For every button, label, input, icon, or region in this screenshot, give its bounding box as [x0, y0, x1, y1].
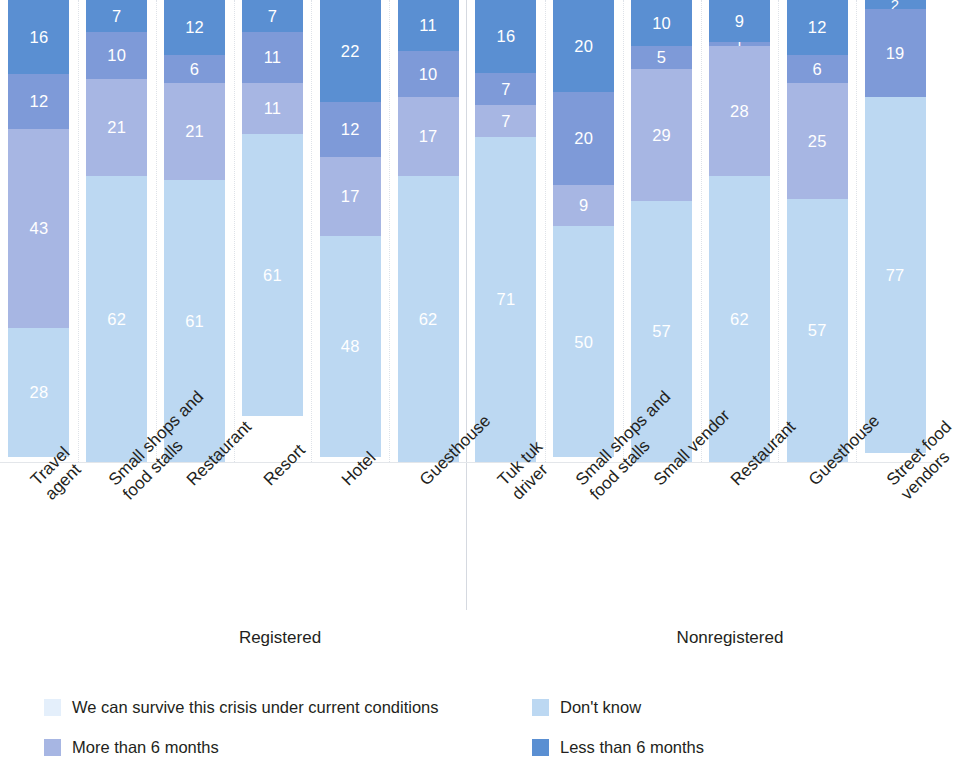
bar-segment[interactable]: 12 — [164, 0, 225, 55]
legend-item-survive[interactable]: We can survive this crisis under current… — [44, 698, 439, 717]
stacked-bar[interactable]: 2020950 — [553, 0, 614, 462]
bar-segment[interactable]: 6 — [164, 55, 225, 83]
stacked-bar[interactable]: 7102162 — [86, 0, 147, 462]
bar-segment[interactable]: 62 — [398, 176, 459, 462]
legend-item-more-than-6-months[interactable]: More than 6 months — [44, 738, 219, 757]
category-axis-labels: Travel agentSmall shops and food stallsR… — [0, 462, 934, 612]
bar-segment-value: 11 — [264, 49, 282, 66]
stacked-bar[interactable]: 22121748 — [320, 0, 381, 462]
bar-segment[interactable]: 10 — [398, 51, 459, 97]
stacked-bar[interactable]: 21977 — [865, 0, 926, 462]
bar-segment-value: 57 — [808, 322, 827, 339]
legend-swatch-dont-know — [532, 699, 549, 716]
bar-segment[interactable]: 2 — [865, 0, 926, 9]
bar-segment[interactable]: 7 — [475, 105, 536, 137]
legend-item-less-than-6-months[interactable]: Less than 6 months — [532, 738, 704, 757]
bar-segment[interactable]: 11 — [398, 0, 459, 51]
bar-segment-value: 62 — [107, 311, 126, 328]
stacked-bar[interactable]: 912862 — [709, 0, 770, 462]
bar-slot: 11101762 — [389, 0, 467, 462]
bar-segment[interactable]: 9 — [553, 185, 614, 227]
bar-slot: 912862 — [700, 0, 778, 462]
gridline — [78, 0, 80, 462]
bar-segment[interactable]: 20 — [553, 0, 614, 92]
bar-segment[interactable]: 11 — [242, 32, 303, 83]
bar-segment-value: 17 — [419, 128, 438, 145]
gridline — [701, 0, 703, 462]
bar-segment-value: 25 — [808, 133, 827, 150]
bar-segment-value: 17 — [341, 188, 360, 205]
bar-segment[interactable]: 48 — [320, 236, 381, 458]
bar-segment[interactable]: 50 — [553, 226, 614, 457]
bar-segment[interactable]: 12 — [320, 102, 381, 157]
bar-segment-value: 20 — [574, 38, 593, 55]
bar-segment[interactable]: 43 — [8, 129, 69, 328]
bar-segment[interactable]: 77 — [865, 97, 926, 453]
bar-segment[interactable]: 61 — [242, 134, 303, 416]
stacked-bar[interactable]: 1262557 — [787, 0, 848, 462]
legend-swatch-less-than-6-months — [532, 739, 549, 756]
bar-segment[interactable]: 16 — [8, 0, 69, 74]
group-titles: Registered Nonregistered — [0, 628, 934, 658]
bar-segment[interactable]: 28 — [709, 46, 770, 175]
stacked-bar[interactable]: 167771 — [475, 0, 536, 462]
bar-segment-value: 16 — [30, 29, 49, 46]
bar-segment[interactable]: 7 — [242, 0, 303, 32]
bar-segment-value: 7 — [268, 8, 277, 25]
gridline — [311, 0, 313, 462]
stacked-bar[interactable]: 11101762 — [398, 0, 459, 462]
legend-item-dont-know[interactable]: Don't know — [532, 698, 641, 717]
bar-segment[interactable]: 10 — [86, 32, 147, 78]
stacked-bar[interactable]: 16124328 — [8, 0, 69, 462]
bar-segment-value: 28 — [30, 384, 49, 401]
bar-segment[interactable]: 21 — [86, 79, 147, 176]
legend-label-more-than-6-months: More than 6 months — [72, 738, 219, 757]
bar-segment[interactable]: 16 — [475, 0, 536, 73]
bar-segment-value: 11 — [419, 17, 437, 34]
bar-segment-value: 71 — [497, 291, 516, 308]
bar-segment-value: 7 — [501, 113, 510, 130]
bar-segment-value: 62 — [419, 311, 438, 328]
bar-segment-value: 6 — [813, 61, 822, 78]
bar-segment-value: 57 — [652, 323, 671, 340]
gridline — [623, 0, 625, 462]
bar-segment[interactable]: 22 — [320, 0, 381, 102]
bar-segment[interactable]: 6 — [787, 55, 848, 83]
bar-segment-value: 61 — [185, 313, 204, 330]
bar-segment[interactable]: 21 — [164, 83, 225, 180]
bar-slot: 167771 — [467, 0, 545, 462]
bar-segment[interactable]: 29 — [631, 69, 692, 202]
bar-segment-value: 29 — [652, 127, 671, 144]
bar-segment[interactable]: 25 — [787, 83, 848, 199]
bar-segment[interactable]: 17 — [320, 157, 381, 236]
stacked-bar[interactable]: 7111161 — [242, 0, 303, 462]
bar-slot: 22121748 — [311, 0, 389, 462]
bar-segment[interactable]: 62 — [86, 176, 147, 462]
bar-segment-value: 12 — [30, 93, 49, 110]
bar-segment[interactable]: 5 — [631, 46, 692, 69]
bar-segment[interactable]: 19 — [865, 9, 926, 97]
bar-segment[interactable]: 57 — [787, 199, 848, 462]
bar-segment[interactable]: 71 — [475, 137, 536, 462]
bar-segment[interactable]: 17 — [398, 97, 459, 176]
bar-segment[interactable]: 11 — [242, 83, 303, 134]
gridline — [778, 0, 780, 462]
bar-segment[interactable]: 12 — [8, 74, 69, 129]
bar-segment[interactable]: 7 — [475, 73, 536, 105]
bar-segment[interactable]: 12 — [787, 0, 848, 55]
bar-segment-value: 2 — [891, 0, 900, 9]
chart-legend: We can survive this crisis under current… — [0, 690, 934, 766]
bar-segment[interactable]: 9 — [709, 0, 770, 42]
bars-layer: 1612432871021621262161711116122121748111… — [0, 0, 934, 462]
bar-segment-value: 12 — [341, 121, 360, 138]
legend-swatch-more-than-6-months — [44, 739, 61, 756]
bar-segment-value: 62 — [730, 311, 749, 328]
bar-segment-value: 7 — [501, 81, 510, 98]
bar-segment[interactable]: 7 — [86, 0, 147, 32]
group-title-registered: Registered — [150, 628, 410, 648]
bar-segment[interactable]: 10 — [631, 0, 692, 46]
bar-segment[interactable]: 20 — [553, 92, 614, 184]
bar-segment-value: 16 — [497, 28, 516, 45]
bar-segment[interactable]: 28 — [8, 328, 69, 457]
